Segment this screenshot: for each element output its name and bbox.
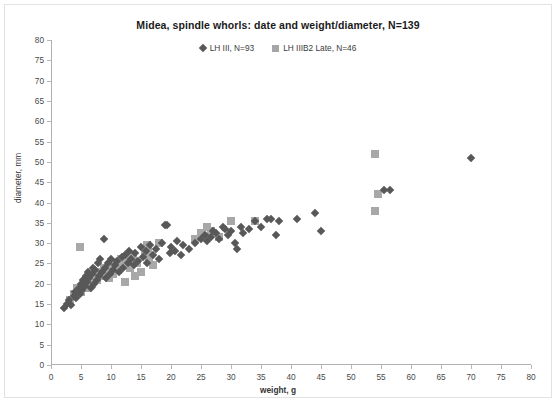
y-tick-label: 0 [39, 360, 44, 370]
y-tick [47, 162, 51, 163]
x-tick-label: 40 [286, 372, 295, 382]
y-axis-line [51, 40, 52, 365]
data-point-square [121, 278, 129, 286]
y-tick [47, 81, 51, 82]
y-tick [47, 223, 51, 224]
data-point-diamond [233, 245, 241, 253]
y-tick [47, 304, 51, 305]
y-tick-label: 70 [35, 76, 44, 86]
y-tick-label: 50 [35, 157, 44, 167]
x-tick [81, 365, 82, 369]
y-tick-label: 55 [35, 137, 44, 147]
y-tick-label: 45 [35, 177, 44, 187]
data-point-square [371, 150, 379, 158]
data-point-diamond [67, 301, 75, 309]
x-tick-label: 20 [166, 372, 175, 382]
y-tick [47, 263, 51, 264]
chart-title: Midea, spindle whorls: date and weight/d… [5, 19, 551, 31]
x-tick-label: 25 [196, 372, 205, 382]
x-tick [501, 365, 502, 369]
x-tick-label: 0 [49, 372, 54, 382]
x-tick [381, 365, 382, 369]
y-tick-label: 30 [35, 238, 44, 248]
y-tick-label: 20 [35, 279, 44, 289]
x-tick [411, 365, 412, 369]
data-point-diamond [293, 215, 301, 223]
x-tick-label: 60 [406, 372, 415, 382]
y-tick-label: 5 [39, 340, 44, 350]
y-tick [47, 142, 51, 143]
data-point-square [76, 243, 84, 251]
data-point-diamond [311, 208, 319, 216]
y-tick [47, 345, 51, 346]
y-tick-label: 60 [35, 116, 44, 126]
x-tick [351, 365, 352, 369]
data-point-diamond [100, 235, 108, 243]
x-tick [471, 365, 472, 369]
y-tick-label: 25 [35, 258, 44, 268]
x-tick-label: 80 [526, 372, 535, 382]
x-tick [141, 365, 142, 369]
x-tick-label: 50 [346, 372, 355, 382]
x-tick [231, 365, 232, 369]
y-tick [47, 40, 51, 41]
x-tick-label: 35 [256, 372, 265, 382]
y-tick-label: 35 [35, 218, 44, 228]
y-tick-label: 80 [35, 35, 44, 45]
y-tick [47, 284, 51, 285]
data-point-diamond [386, 186, 394, 194]
data-point-diamond [185, 245, 193, 253]
x-tick-label: 70 [466, 372, 475, 382]
x-tick-label: 30 [226, 372, 235, 382]
y-tick-label: 65 [35, 96, 44, 106]
data-point-square [371, 207, 379, 215]
y-tick [47, 121, 51, 122]
data-point-diamond [317, 227, 325, 235]
data-point-diamond [275, 217, 283, 225]
x-tick [51, 365, 52, 369]
x-tick [111, 365, 112, 369]
x-tick [291, 365, 292, 369]
y-tick [47, 182, 51, 183]
x-tick-label: 75 [496, 372, 505, 382]
x-tick-label: 10 [106, 372, 115, 382]
plot-area: 05101520253035404550556065707580 0510152… [51, 40, 531, 365]
x-tick-label: 45 [316, 372, 325, 382]
x-axis-title: weight, g [5, 385, 551, 395]
x-tick-label: 65 [436, 372, 445, 382]
x-tick [261, 365, 262, 369]
x-tick [171, 365, 172, 369]
y-tick-label: 40 [35, 198, 44, 208]
data-point-diamond [257, 223, 265, 231]
data-point-square [227, 217, 235, 225]
y-tick [47, 243, 51, 244]
data-point-diamond [176, 251, 184, 259]
y-tick-label: 15 [35, 299, 44, 309]
y-axis-title: diameter, mm [13, 153, 23, 203]
y-tick-label: 10 [35, 319, 44, 329]
x-tick-label: 5 [79, 372, 84, 382]
y-tick-label: 75 [35, 55, 44, 65]
x-tick [531, 365, 532, 369]
x-tick [441, 365, 442, 369]
x-tick [321, 365, 322, 369]
chart-container: Midea, spindle whorls: date and weight/d… [4, 4, 552, 398]
y-tick [47, 101, 51, 102]
y-tick [47, 60, 51, 61]
data-point-square [137, 268, 145, 276]
x-tick-label: 55 [376, 372, 385, 382]
y-tick [47, 203, 51, 204]
data-point-diamond [467, 154, 475, 162]
data-point-diamond [272, 231, 280, 239]
x-tick [201, 365, 202, 369]
y-tick [47, 324, 51, 325]
x-tick-label: 15 [136, 372, 145, 382]
